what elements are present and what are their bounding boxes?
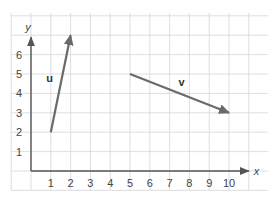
x-tick-label: 8 [186, 177, 192, 189]
y-tick-label: 6 [16, 49, 22, 61]
x-tick-label: 6 [147, 177, 153, 189]
y-tick-label: 3 [16, 107, 22, 119]
vectors: uv [46, 35, 229, 132]
x-tick-label: 10 [223, 177, 235, 189]
x-tick-label: 7 [167, 177, 173, 189]
grid [11, 13, 268, 190]
vector-plot: xy 12345678910123456 uv [0, 0, 274, 199]
vector-label-u: u [46, 72, 53, 84]
vector-u [51, 35, 71, 132]
x-tick-label: 4 [107, 177, 113, 189]
tick-labels: 12345678910123456 [16, 49, 235, 189]
x-tick-label: 5 [127, 177, 133, 189]
y-tick-label: 2 [16, 126, 22, 138]
y-tick-label: 5 [16, 68, 22, 80]
x-tick-label: 2 [68, 177, 74, 189]
y-tick-label: 1 [16, 146, 22, 158]
y-tick-label: 4 [16, 87, 22, 99]
vector-label-v: v [178, 76, 185, 88]
x-tick-label: 1 [48, 177, 54, 189]
x-tick-label: 3 [87, 177, 93, 189]
x-tick-label: 9 [206, 177, 212, 189]
axes: xy [24, 21, 260, 177]
x-axis-label: x [253, 165, 260, 177]
